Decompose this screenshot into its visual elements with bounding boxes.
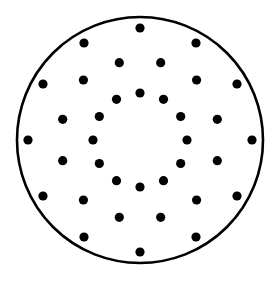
dot-marker — [58, 156, 67, 165]
dot-marker — [232, 191, 241, 200]
dot-marker — [156, 58, 165, 67]
dot-marker — [159, 95, 168, 104]
dot-marker — [38, 191, 47, 200]
dot-marker — [135, 247, 144, 256]
dot-marker — [95, 112, 104, 121]
dot-marker — [115, 213, 124, 222]
dot-marker — [176, 112, 185, 121]
dot-marker — [58, 115, 67, 124]
diagram-canvas — [0, 0, 277, 282]
dot-marker — [192, 75, 201, 84]
dot-marker — [247, 135, 256, 144]
dot-marker — [79, 75, 88, 84]
dot-marker — [135, 182, 144, 191]
dot-marker — [192, 195, 201, 204]
dot-marker — [232, 79, 241, 88]
dot-marker — [213, 156, 222, 165]
dot-marker — [176, 159, 185, 168]
dot-marker — [213, 115, 222, 124]
dot-marker — [115, 58, 124, 67]
dot-marker — [156, 213, 165, 222]
dot-marker — [182, 135, 191, 144]
dot-marker — [79, 232, 88, 241]
dot-marker — [112, 176, 121, 185]
dot-marker — [79, 195, 88, 204]
dot-marker — [135, 88, 144, 97]
dot-marker — [95, 159, 104, 168]
background — [0, 0, 277, 282]
dot-marker — [135, 23, 144, 32]
dot-marker — [159, 176, 168, 185]
dot-marker — [79, 38, 88, 47]
dot-marker — [23, 135, 32, 144]
dot-marker — [88, 135, 97, 144]
dot-marker — [112, 95, 121, 104]
dot-marker — [191, 232, 200, 241]
dot-marker — [191, 38, 200, 47]
dot-ring-figure — [0, 0, 277, 282]
dot-marker — [38, 79, 47, 88]
